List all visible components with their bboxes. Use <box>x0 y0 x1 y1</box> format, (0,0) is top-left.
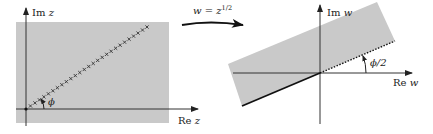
conformal-map-diagram: ϕ Im z Re z w = z1/2 ϕ/2 Im w Re w <box>0 0 433 134</box>
w-region <box>228 2 395 106</box>
w-imag-axis-label: Im w <box>327 7 353 18</box>
z-region <box>16 22 169 123</box>
w-angle-arc <box>363 56 366 73</box>
w-angle-label: ϕ/2 <box>370 57 387 68</box>
mapping-arrow-icon <box>182 23 243 26</box>
mapping-arrow-group: w = z1/2 <box>182 4 243 25</box>
mapping-label: w = z1/2 <box>193 4 232 16</box>
z-plane: ϕ Im z Re z <box>16 7 201 126</box>
w-real-axis-label: Re w <box>393 77 419 88</box>
z-imag-axis-label: Im z <box>32 7 55 18</box>
z-real-axis-label: Re z <box>178 115 201 126</box>
z-origin-dot <box>24 107 27 110</box>
z-angle-label: ϕ <box>48 96 55 107</box>
w-plane: ϕ/2 Im w Re w <box>228 2 419 124</box>
